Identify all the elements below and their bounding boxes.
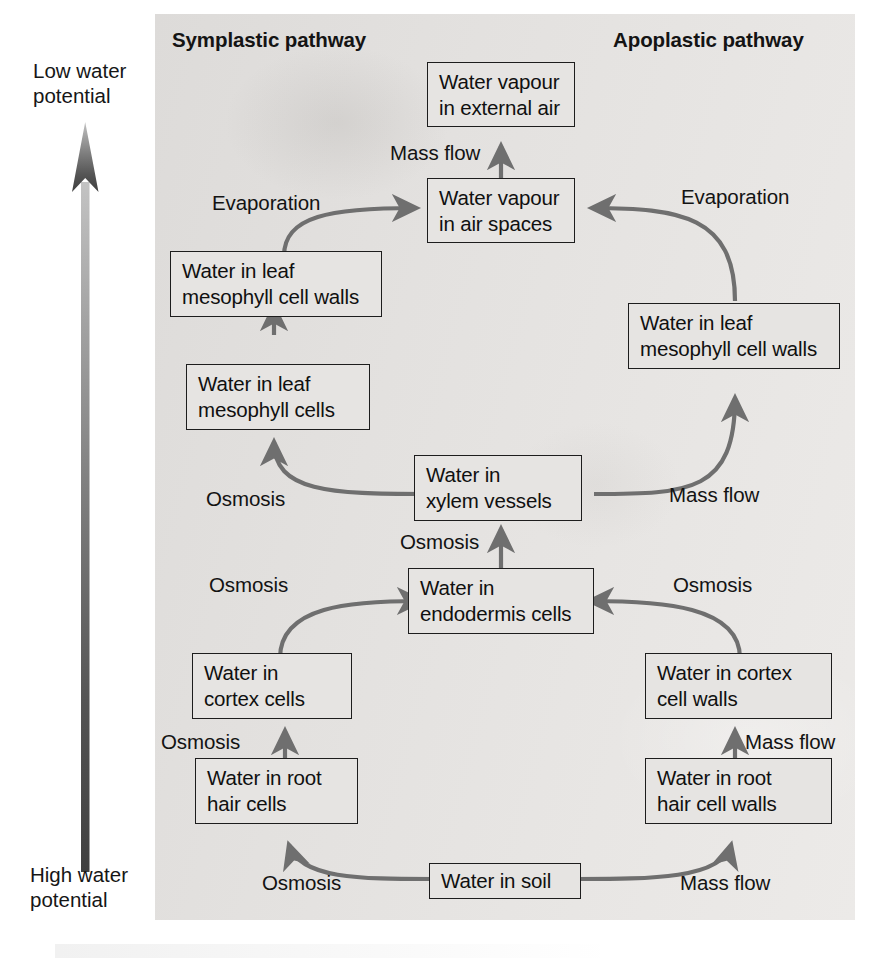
node-apoplastic-leaf-mesophyll-cell-walls[interactable]: Water in leaf mesophyll cell walls [628, 303, 840, 369]
node-symplastic-cortex-cells[interactable]: Water in cortex cells [192, 653, 352, 719]
node-line2: in external air [439, 95, 563, 121]
node-symplastic-leaf-mesophyll-cells[interactable]: Water in leaf mesophyll cells [186, 364, 370, 430]
node-line2: cortex cells [204, 686, 340, 712]
edge-label-evaporation-apoplastic: Evaporation [681, 185, 789, 209]
node-line1: Water in cortex [657, 660, 820, 686]
edge-label-osmosis-xylem-to-mesophyll: Osmosis [206, 487, 285, 511]
node-line1: Water in leaf [640, 310, 828, 336]
node-line1: Water in soil [441, 868, 569, 894]
node-water-in-soil[interactable]: Water in soil [429, 863, 581, 899]
heading-symplastic-pathway: Symplastic pathway [172, 28, 366, 52]
node-line2: in air spaces [439, 211, 563, 237]
edge-label-osmosis-cortex-to-endodermis: Osmosis [209, 573, 288, 597]
edge-label-mass-flow-soil-to-root-hair-walls: Mass flow [680, 871, 770, 895]
heading-apoplastic-pathway: Apoplastic pathway [613, 28, 804, 52]
node-apoplastic-root-hair-cell-walls[interactable]: Water in root hair cell walls [645, 758, 832, 824]
node-symplastic-root-hair-cells[interactable]: Water in root hair cells [195, 758, 358, 824]
axis-label-high-line1: High water [30, 863, 128, 886]
node-line1: Water vapour [439, 185, 563, 211]
figure-canvas: Low water potential High water potential… [0, 0, 883, 962]
axis-label-high-line2: potential [30, 888, 108, 911]
node-line1: Water in leaf [182, 258, 370, 284]
node-line2: cell walls [657, 686, 820, 712]
edge-label-osmosis-root-hair-to-cortex: Osmosis [161, 730, 240, 754]
node-line2: endodermis cells [420, 601, 582, 627]
edge-label-mass-flow-vapour: Mass flow [390, 141, 480, 165]
edge-label-osmosis-endodermis-to-xylem: Osmosis [400, 530, 479, 554]
node-water-in-xylem-vessels[interactable]: Water in xylem vessels [414, 455, 582, 521]
node-water-in-endodermis-cells[interactable]: Water in endodermis cells [408, 568, 594, 634]
node-line2: hair cell walls [657, 791, 820, 817]
node-line1: Water in root [207, 765, 346, 791]
water-potential-arrow [70, 120, 100, 872]
node-line1: Water in [420, 575, 582, 601]
node-water-vapour-in-air-spaces[interactable]: Water vapour in air spaces [427, 178, 575, 243]
node-line2: mesophyll cell walls [640, 336, 828, 362]
edge-label-mass-flow-xylem-to-apoplastic-walls: Mass flow [669, 483, 759, 507]
edge-label-osmosis-soil-to-root-hair: Osmosis [262, 871, 341, 895]
axis-label-high-water-potential: High water potential [30, 862, 128, 912]
axis-label-low-line1: Low water [33, 59, 126, 82]
node-water-vapour-in-external-air[interactable]: Water vapour in external air [427, 62, 575, 127]
edge-label-evaporation-symplastic: Evaporation [212, 191, 320, 215]
cropped-caption-remnant [55, 944, 615, 958]
axis-label-low-line2: potential [33, 84, 111, 107]
edge-label-mass-flow-root-hair-walls-to-cortex-walls: Mass flow [745, 730, 835, 754]
edge-label-osmosis-apoplastic-cortex-to-endodermis: Osmosis [673, 573, 752, 597]
node-line2: mesophyll cell walls [182, 284, 370, 310]
node-line2: mesophyll cells [198, 397, 358, 423]
node-line1: Water in [204, 660, 340, 686]
axis-label-low-water-potential: Low water potential [33, 58, 126, 108]
node-line2: hair cells [207, 791, 346, 817]
node-symplastic-leaf-mesophyll-cell-walls[interactable]: Water in leaf mesophyll cell walls [170, 251, 382, 317]
node-apoplastic-cortex-cell-walls[interactable]: Water in cortex cell walls [645, 653, 832, 719]
node-line1: Water vapour [439, 69, 563, 95]
node-line1: Water in root [657, 765, 820, 791]
node-line2: xylem vessels [426, 488, 570, 514]
node-line1: Water in [426, 462, 570, 488]
node-line1: Water in leaf [198, 371, 358, 397]
